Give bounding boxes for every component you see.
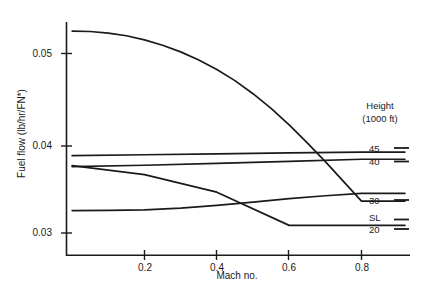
series-label-40: 40 [369,156,380,167]
series-label-20: 20 [369,224,380,235]
series-label-30: 30 [369,195,380,206]
legend-title-line2: (1000 ft) [340,113,420,124]
ytick-label-0.03: 0.03 [12,227,52,238]
legend-dashes [394,148,409,229]
series-line-40 [72,159,405,166]
y-axis-title: Fuel flow (lb/hr/FN*) [16,74,27,194]
xtick-label-0.2: 0.2 [125,262,165,273]
xtick-label-0.8: 0.8 [342,262,382,273]
series-line-45 [72,152,405,156]
x-axis-title: Mach no. [187,270,287,281]
series-label-45: 45 [369,143,380,154]
plot-area [0,0,426,297]
series-label-SL: SL [369,212,381,223]
series-lines [72,31,405,225]
legend-title-line1: Height [340,100,420,111]
ytick-label-0.05: 0.05 [12,48,52,59]
series-line-20 [72,166,405,226]
chart-container: 0.05 0.04 0.03 0.2 0.4 0.6 0.8 Fuel flow… [0,0,426,297]
